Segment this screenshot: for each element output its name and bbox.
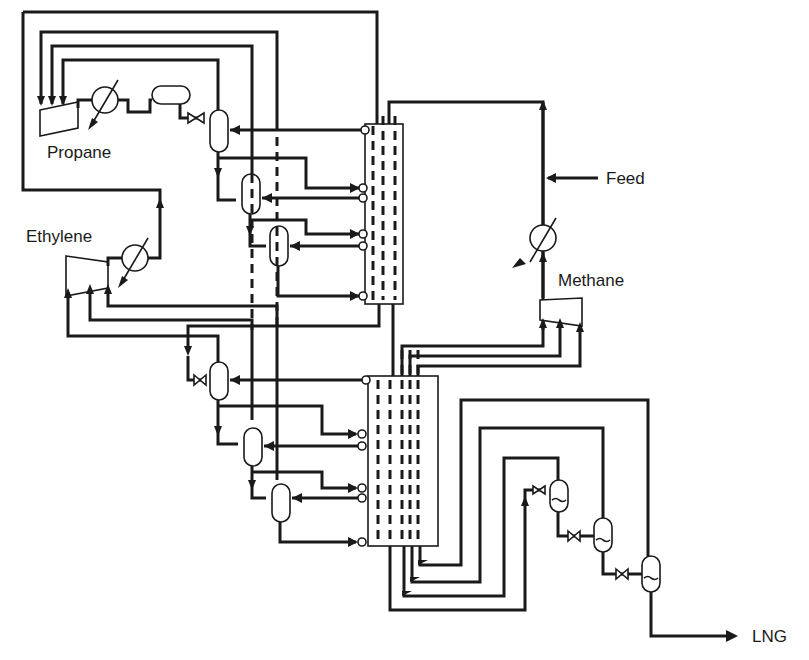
label-ethylene: Ethylene	[26, 227, 92, 246]
label-lng: LNG	[752, 627, 787, 646]
propane-compressor	[40, 102, 78, 136]
propane-accumulator	[152, 86, 190, 104]
propane-flash-drum-1	[210, 110, 228, 152]
methane-flash-drum-2	[594, 518, 612, 552]
propane-condenser	[88, 80, 118, 130]
methane-valve-3	[616, 569, 628, 579]
methane-condenser	[512, 218, 556, 268]
ethylene-flash-drum-1	[210, 362, 228, 400]
ethylene-valve-1	[194, 375, 206, 385]
methane-flash-drum-3	[642, 556, 660, 592]
ethylene-compressor	[66, 256, 108, 296]
label-propane: Propane	[47, 143, 111, 162]
methane-valve-1	[533, 486, 545, 494]
ethylene-condenser	[118, 238, 148, 288]
propane-valve-1	[188, 113, 204, 123]
label-feed: Feed	[606, 169, 645, 188]
methane-flash-drum-1	[550, 480, 568, 512]
label-methane: Methane	[558, 271, 624, 290]
propane-flash-drum-3	[270, 226, 288, 266]
methane-valve-2	[568, 531, 580, 541]
ethylene-flash-drum-2	[244, 428, 262, 466]
process-flow-diagram: Propane Ethylene Methane Feed LNG	[0, 0, 809, 660]
ethylene-flash-drum-3	[272, 484, 290, 522]
